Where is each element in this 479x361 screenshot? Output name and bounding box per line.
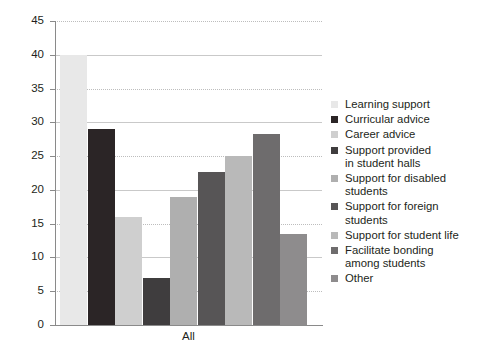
bar <box>88 129 115 325</box>
bar <box>115 217 142 325</box>
bar <box>143 278 170 325</box>
legend-item[interactable]: Other <box>331 272 477 285</box>
bar <box>170 197 197 325</box>
legend-swatch <box>331 275 338 282</box>
y-axis-tick-label: 10 <box>4 251 44 262</box>
bar <box>225 156 252 325</box>
y-axis-tick-label: 30 <box>4 116 44 127</box>
legend-swatch <box>331 203 338 210</box>
plot-area <box>55 21 322 325</box>
y-axis-tick-label: 25 <box>4 150 44 161</box>
legend-swatch <box>331 116 338 123</box>
bar-chart: 051015202530354045 All Learning supportC… <box>0 0 479 361</box>
bar <box>253 134 280 325</box>
y-axis-tick-label: 5 <box>4 285 44 296</box>
legend-item-label: Learning support <box>345 98 430 111</box>
legend-item-label: Other <box>345 272 373 285</box>
y-axis-tick-label: 45 <box>4 15 44 26</box>
legend-item-label: Support for foreign students <box>345 200 439 226</box>
x-axis-line <box>55 325 323 326</box>
legend-item[interactable]: Career advice <box>331 128 477 141</box>
legend-swatch <box>331 147 338 154</box>
legend-swatch <box>331 131 338 138</box>
y-axis-line <box>55 21 56 326</box>
legend-item[interactable]: Learning support <box>331 98 477 111</box>
legend: Learning supportCurricular adviceCareer … <box>331 98 477 288</box>
legend-item[interactable]: Support for disabled students <box>331 172 477 198</box>
legend-item-label: Facilitate bonding among students <box>345 244 434 270</box>
legend-item[interactable]: Support for foreign students <box>331 200 477 226</box>
x-axis-label: All <box>55 330 322 342</box>
legend-item[interactable]: Facilitate bonding among students <box>331 244 477 270</box>
legend-item[interactable]: Curricular advice <box>331 113 477 126</box>
legend-item-label: Career advice <box>345 128 415 141</box>
bar <box>60 55 87 325</box>
y-axis-tick-label: 35 <box>4 83 44 94</box>
bar <box>280 234 307 325</box>
legend-swatch <box>331 232 338 239</box>
legend-item-label: Curricular advice <box>345 113 430 126</box>
legend-item[interactable]: Support for student life <box>331 229 477 242</box>
bar <box>198 172 225 325</box>
y-axis-tick-label: 15 <box>4 218 44 229</box>
y-axis-tick-label: 20 <box>4 184 44 195</box>
bar-series-group <box>55 21 322 325</box>
legend-swatch <box>331 247 338 254</box>
legend-item[interactable]: Support provided in student halls <box>331 144 477 170</box>
legend-item-label: Support for disabled students <box>345 172 446 198</box>
legend-swatch <box>331 101 338 108</box>
y-axis-tick-label: 0 <box>4 319 44 330</box>
legend-item-label: Support for student life <box>345 229 459 242</box>
y-axis-tick-label: 40 <box>4 49 44 60</box>
legend-swatch <box>331 175 338 182</box>
legend-item-label: Support provided in student halls <box>345 144 431 170</box>
